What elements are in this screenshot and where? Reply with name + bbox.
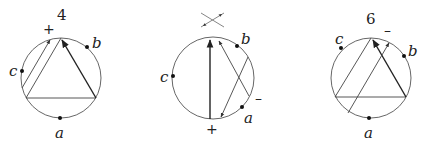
circle <box>21 38 101 118</box>
point-c <box>171 74 175 78</box>
point-c <box>20 69 24 73</box>
point-a <box>367 116 371 120</box>
sign-label: + <box>43 21 55 37</box>
point-label-c: c <box>160 68 169 86</box>
point-b <box>85 45 89 49</box>
sign-label-minus: – <box>255 90 262 106</box>
point-label-c: c <box>9 62 18 80</box>
point-b <box>402 54 406 58</box>
point-a <box>58 116 62 120</box>
circle <box>331 38 411 118</box>
point-label-a: a <box>244 109 253 127</box>
point-label-c: c <box>335 30 344 48</box>
point-label-b: b <box>408 42 418 60</box>
arrow-chord <box>348 43 389 113</box>
point-b <box>235 44 239 48</box>
point-label-b: b <box>241 30 251 48</box>
crossing-icon <box>201 13 224 27</box>
diagram-right: 6 – c b a <box>331 10 418 142</box>
sign-label-plus: + <box>206 121 218 137</box>
chord <box>26 38 61 98</box>
point-label-b: b <box>92 34 102 52</box>
arrow-chord <box>373 40 406 97</box>
point-label-a: a <box>55 124 64 142</box>
chord-diagrams: 4 + c b a c b <box>0 0 423 144</box>
sign-label: – <box>384 22 391 38</box>
arrow-chord <box>62 40 96 98</box>
diagram-number: 4 <box>57 6 67 24</box>
diagram-left: 4 + c b a <box>9 6 102 142</box>
diagram-middle: c b a – + <box>160 13 262 137</box>
point-label-a: a <box>364 124 373 142</box>
diagram-number: 6 <box>366 10 376 28</box>
